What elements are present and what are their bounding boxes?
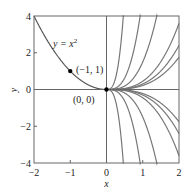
y-tick-label: −2 (20, 121, 31, 132)
curve (107, 90, 158, 164)
curve (107, 90, 141, 164)
curve (107, 16, 141, 90)
x-tick-label: 1 (140, 167, 145, 178)
point-marker-a (68, 69, 72, 73)
y-axis-label: y (8, 87, 19, 93)
x-axis-label: x (103, 178, 109, 189)
chart: −2 −1 0 1 2 4 2 0 −2 −4 x y y = x2 (−1, … (0, 0, 192, 189)
curve (34, 16, 107, 90)
curve-label-sup: 2 (74, 37, 78, 45)
y-tick-label: 2 (26, 47, 31, 58)
curve (107, 90, 180, 156)
x-tick-label: 2 (177, 167, 182, 178)
y-tick-label: 4 (26, 11, 31, 22)
point-label-a: (−1, 1) (76, 64, 103, 76)
point-label-b: (0, 0) (73, 94, 95, 106)
y-tick-label: −4 (20, 158, 31, 169)
curve (107, 23, 180, 89)
curve-label-main: y = x (52, 38, 74, 49)
curve (107, 16, 124, 90)
y-tick-label: 0 (26, 84, 31, 95)
curve (107, 90, 124, 164)
x-tick-label: −1 (65, 167, 76, 178)
point-marker-b (104, 87, 108, 91)
curve-label: y = x2 (52, 37, 78, 49)
x-tick-label: 0 (104, 167, 109, 178)
curve (107, 15, 158, 89)
